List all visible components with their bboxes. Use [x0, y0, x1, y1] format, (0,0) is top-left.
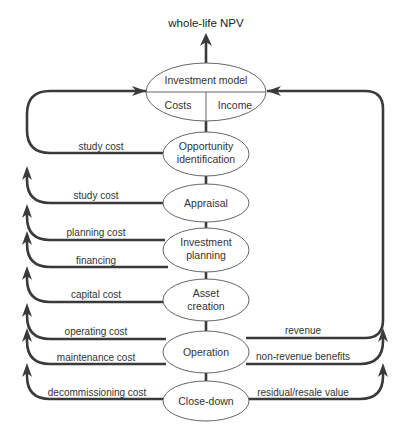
- costs-label: Costs: [165, 99, 192, 111]
- label-revenue: revenue: [285, 325, 322, 336]
- svg-text:creation: creation: [187, 300, 225, 312]
- stage-operation: Operation: [163, 331, 249, 373]
- label-non-revenue-benefits: non-revenue benefits: [256, 351, 350, 362]
- label-operating-cost: operating cost: [65, 326, 128, 337]
- svg-text:Investment: Investment: [180, 236, 231, 248]
- svg-text:Close-down: Close-down: [178, 395, 234, 407]
- label-study-cost-2: study cost: [73, 190, 118, 201]
- income-flow-labels: revenue non-revenue benefits residual/re…: [256, 325, 350, 398]
- stage-asset-creation: Asset creation: [163, 279, 249, 321]
- investment-lifecycle-diagram: whole-life NPV: [0, 0, 408, 436]
- svg-text:Asset: Asset: [193, 287, 219, 299]
- label-residual-resale-value: residual/resale value: [257, 387, 349, 398]
- label-decommissioning-cost: decommissioning cost: [48, 387, 147, 398]
- flow-revenue-to-model: [246, 91, 383, 338]
- investment-model-node: Investment model Costs Income: [146, 63, 266, 121]
- stage-appraisal: Appraisal: [163, 184, 249, 222]
- investment-model-title: Investment model: [165, 74, 248, 86]
- stage-investment-planning: Investment planning: [163, 228, 249, 272]
- svg-text:identification: identification: [177, 153, 236, 165]
- npv-label: whole-life NPV: [167, 17, 244, 29]
- stage-opportunity-identification: Opportunity identification: [163, 132, 249, 176]
- label-financing: financing: [76, 255, 116, 266]
- svg-text:planning: planning: [186, 249, 226, 261]
- label-planning-cost: planning cost: [67, 227, 126, 238]
- svg-text:Appraisal: Appraisal: [184, 197, 228, 209]
- label-capital-cost: capital cost: [71, 289, 121, 300]
- svg-text:Opportunity: Opportunity: [179, 140, 234, 152]
- cost-flow-labels: study cost study cost planning cost fina…: [48, 141, 147, 398]
- stage-close-down: Close-down: [163, 381, 249, 421]
- label-study-cost-1: study cost: [78, 141, 123, 152]
- svg-text:Operation: Operation: [183, 346, 229, 358]
- label-maintenance-cost: maintenance cost: [57, 352, 136, 363]
- npv-output-arrow: [200, 33, 212, 63]
- income-label: Income: [218, 99, 253, 111]
